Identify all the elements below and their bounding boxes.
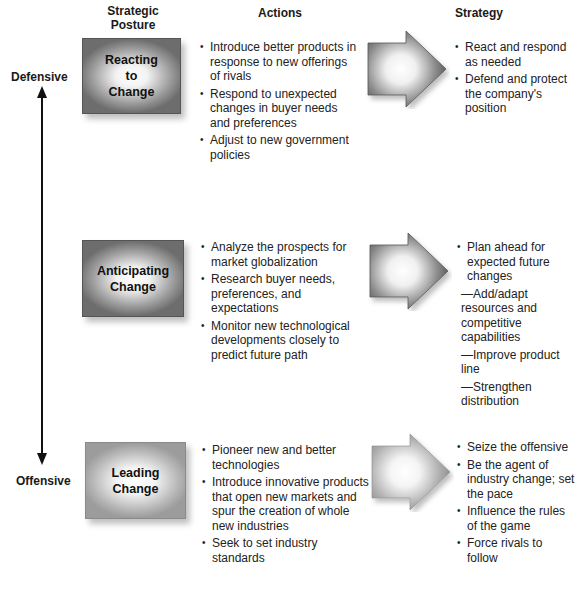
- axis-arrowhead-down-icon: [37, 453, 47, 465]
- list-item: Be the agent of industry change; set the…: [457, 458, 575, 502]
- list-item: React and respond as needed: [455, 40, 570, 69]
- posture-label-line: Reacting: [105, 52, 158, 68]
- posture-label-line: Leading: [112, 465, 160, 481]
- actions-list-anticipating: Analyze the prospects for market globali…: [201, 240, 371, 365]
- posture-label-line: Change: [97, 279, 169, 295]
- right-arrow-icon: [370, 432, 454, 512]
- list-item: Monitor new technological developments c…: [201, 319, 371, 363]
- posture-label-line: to: [105, 68, 158, 84]
- list-item: Defend and protect the company's positio…: [455, 72, 570, 116]
- right-arrow-icon: [366, 29, 450, 109]
- list-item: Respond to unexpected changes in buyer n…: [200, 87, 360, 131]
- posture-label-line: Change: [112, 481, 160, 497]
- posture-box-anticipating: Anticipating Change: [82, 240, 184, 317]
- defensive-offensive-axis: [41, 92, 43, 458]
- list-item: Force rivals to follow: [457, 536, 575, 565]
- posture-label-line: Change: [105, 84, 158, 100]
- list-item: Introduce innovative products that open …: [202, 475, 372, 533]
- list-item: Analyze the prospects for market globali…: [201, 240, 371, 269]
- actions-list-leading: Pioneer new and better technologies Intr…: [202, 443, 372, 568]
- list-item: Pioneer new and better technologies: [202, 443, 372, 472]
- actions-list-reacting: Introduce better products in response to…: [200, 40, 360, 165]
- strategy-list-anticipating: Plan ahead for expected future changes —…: [457, 240, 572, 412]
- strategy-list-reacting: React and respond as needed Defend and p…: [455, 40, 570, 119]
- list-item: Seize the offensive: [457, 440, 575, 455]
- header-strategy: Strategy: [455, 6, 545, 20]
- list-item: Introduce better products in response to…: [200, 40, 360, 84]
- list-item: Plan ahead for expected future changes: [457, 240, 572, 284]
- header-strategic-posture: Strategic Posture: [98, 4, 168, 32]
- list-subitem: —Strengthen distribution: [457, 380, 572, 409]
- list-item: Adjust to new government policies: [200, 133, 360, 162]
- strategy-list-leading: Seize the offensive Be the agent of indu…: [457, 440, 575, 568]
- list-item: Seek to set industry standards: [202, 536, 372, 565]
- list-item: Influence the rules of the game: [457, 504, 575, 533]
- posture-label-line: Anticipating: [97, 263, 169, 279]
- list-subitem: —Add/adapt resources and competitive cap…: [457, 287, 572, 345]
- right-arrow-icon: [368, 231, 452, 311]
- list-item: Research buyer needs, preferences, and e…: [201, 272, 371, 316]
- header-actions: Actions: [240, 6, 320, 20]
- list-subitem: —Improve product line: [457, 348, 572, 377]
- posture-box-leading: Leading Change: [85, 442, 186, 519]
- axis-label-defensive: Defensive: [11, 70, 68, 84]
- axis-label-offensive: Offensive: [16, 474, 71, 488]
- posture-box-reacting: Reacting to Change: [82, 38, 181, 114]
